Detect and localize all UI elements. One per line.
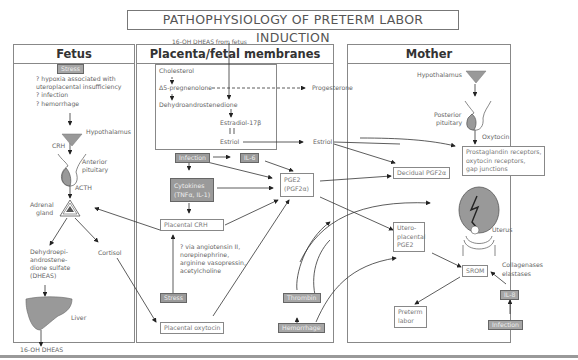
- preterm-labor-box: Preterm labor: [394, 306, 427, 328]
- placental-oxytocin-box: Placental oxytocin: [160, 322, 224, 334]
- collagenases-label-2: elastases: [502, 270, 531, 278]
- estriol-label: Estriol: [220, 138, 239, 146]
- hemorrhage-box: Hemorrhage: [278, 323, 325, 333]
- pregnenolone-label: Δ5-pregnenolone: [159, 84, 212, 92]
- fetus-cause-3: ? infection: [36, 91, 68, 99]
- pge2-label-2: (PGF2α): [284, 184, 310, 193]
- progesterone-label: Progesterone: [312, 84, 353, 92]
- acth-label: ACTH: [75, 184, 92, 192]
- adrenal-gland-icon: [60, 200, 80, 216]
- bottom-divider: [0, 355, 578, 358]
- fetus-cause-4: ? hemorrhage: [36, 100, 79, 108]
- via-list-4: acetylcholine: [180, 267, 221, 275]
- receptors-label-1: Prostaglandin receptors,: [466, 148, 541, 157]
- cytokines-label-2: (TNFα, IL-1): [174, 190, 210, 199]
- receptors-box: Prostaglandin receptors, oxytocin recept…: [462, 146, 545, 176]
- posterior-pituitary-label-2: pituitary: [436, 119, 462, 127]
- receptors-label-3: gap junctions: [466, 165, 541, 174]
- pge2-label-1: PGE2: [284, 175, 310, 184]
- cytokines-label-1: Cytokines: [174, 181, 210, 190]
- adrenal-gland-label-2: gland: [36, 209, 53, 217]
- estriol-out-label: Estriol: [313, 138, 332, 146]
- estradiol-label: Estradiol-17β: [220, 119, 261, 127]
- pge2-box: PGE2 (PGF2α): [280, 173, 314, 197]
- posterior-pituitary-icon: [465, 101, 491, 130]
- cortisol-label: Cortisol: [98, 249, 122, 257]
- placenta-infection-box: Infection: [175, 153, 210, 163]
- oxytocin-label: Oxytocin: [482, 133, 509, 141]
- maternal-hypothalamus-icon: [466, 71, 486, 83]
- cytokines-box: Cytokines (TNFα, IL-1): [170, 178, 214, 202]
- thrombin-box: Thrombin: [283, 293, 321, 303]
- il8-box: IL-8: [500, 290, 519, 300]
- collagenases-label-1: Collagenases: [502, 261, 543, 269]
- placental-crh-box: Placental CRH: [160, 219, 224, 231]
- uteroplacental-label-1: Utero-: [397, 224, 421, 233]
- srom-box: SROM: [462, 265, 488, 277]
- uteroplacental-label-2: placental: [397, 233, 421, 242]
- preterm-labor-label-1: Preterm: [398, 308, 423, 317]
- uteroplacental-label-3: PGE2: [397, 241, 421, 250]
- dehydroandrostenedione-label: Dehydroandrostenedione: [159, 101, 237, 109]
- decidual-pgf-box: Decidual PGF2α: [393, 167, 450, 179]
- fetus-output-16oh-dheas: 16-OH DHEAS: [20, 346, 63, 354]
- crh-label: CRH: [52, 142, 65, 150]
- liver-icon: [26, 297, 72, 330]
- receptors-label-2: oxytocin receptors,: [466, 157, 541, 166]
- anterior-pituitary-label-2: pituitary: [82, 166, 108, 174]
- fetus-stress-box: Stress: [57, 64, 84, 74]
- uterus-icon: [459, 187, 499, 256]
- mother-infection-box: Infection: [488, 320, 523, 330]
- fetus-hypothalamus-label: Hypothalamus: [86, 128, 131, 136]
- dheas-label-4: (DHEAS): [30, 272, 56, 280]
- placenta-stress-box: Stress: [160, 293, 187, 303]
- preterm-labor-label-2: labor: [398, 317, 423, 326]
- uterus-label: Uterus: [492, 226, 512, 234]
- uteroplacental-pge-box: Utero- placental PGE2: [393, 222, 425, 252]
- mother-hypothalamus-label: Hypothalamus: [417, 71, 462, 79]
- liver-label: Liver: [71, 314, 86, 322]
- cholesterol-label: Cholesterol: [159, 67, 194, 75]
- il6-box: IL-6: [240, 153, 259, 163]
